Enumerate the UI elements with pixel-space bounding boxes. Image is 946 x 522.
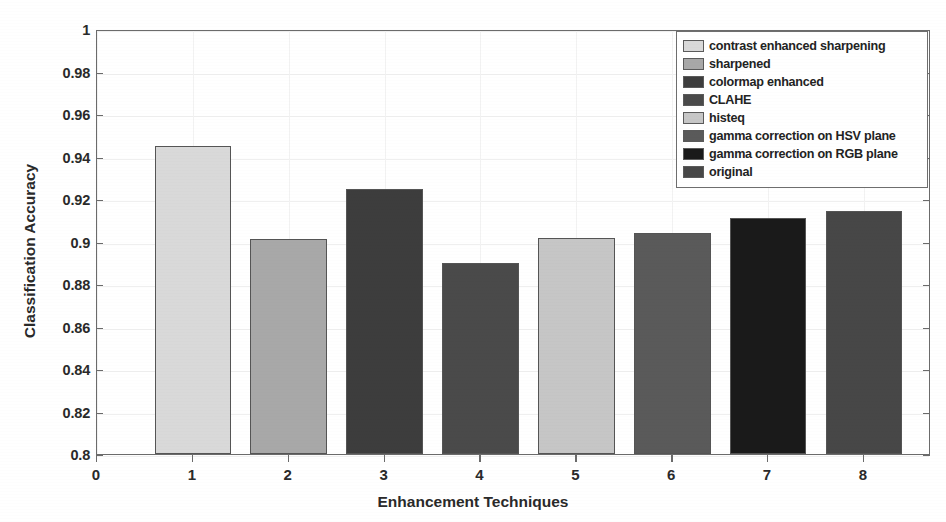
x-tick-label: 0 xyxy=(76,466,116,483)
bar xyxy=(634,233,711,454)
x-tick-mark xyxy=(575,455,576,462)
y-tick-label: 0.94 xyxy=(63,150,90,166)
y-tick-mark xyxy=(96,328,103,329)
legend-swatch xyxy=(683,112,704,124)
x-tick-label: 5 xyxy=(555,466,595,483)
bar-chart-figure: Classification Accuracy 10.980.960.940.9… xyxy=(0,0,946,522)
legend-label: contrast enhanced sharpening xyxy=(709,39,885,53)
y-tick-label: 0.86 xyxy=(63,320,90,336)
y-tick-mark xyxy=(96,200,103,201)
y-tick-mark xyxy=(96,413,103,414)
y-tick-mark-right xyxy=(923,200,930,201)
legend-item: sharpened xyxy=(683,55,922,73)
x-tick-label: 7 xyxy=(747,466,787,483)
legend-label: sharpened xyxy=(709,57,770,71)
x-tick-label: 8 xyxy=(843,466,883,483)
y-tick-mark xyxy=(96,73,103,74)
legend-label: colormap enhanced xyxy=(709,75,824,89)
legend-swatch xyxy=(683,40,704,52)
legend-item: gamma correction on RGB plane xyxy=(683,145,922,163)
x-tick-mark xyxy=(767,455,768,462)
legend-label: original xyxy=(709,165,752,179)
y-tick-label: 0.96 xyxy=(63,107,90,123)
y-tick-mark-right xyxy=(923,413,930,414)
legend-swatch xyxy=(683,76,704,88)
x-tick-label: 2 xyxy=(268,466,308,483)
legend-swatch xyxy=(683,166,704,178)
y-tick-mark-right xyxy=(923,285,930,286)
legend-item: contrast enhanced sharpening xyxy=(683,37,922,55)
bar xyxy=(250,239,327,454)
y-tick-mark-right xyxy=(923,455,930,456)
x-tick-label: 4 xyxy=(459,466,499,483)
legend-item: original xyxy=(683,163,922,181)
x-tick-label: 1 xyxy=(172,466,212,483)
y-tick-label: 0.9 xyxy=(70,235,90,251)
y-tick-label: 0.88 xyxy=(63,277,90,293)
x-tick-mark xyxy=(192,455,193,462)
y-axis-label: Classification Accuracy xyxy=(21,71,39,431)
y-tick-mark xyxy=(96,115,103,116)
x-tick-mark xyxy=(288,455,289,462)
bar xyxy=(730,218,807,454)
bar xyxy=(442,263,519,454)
y-tick-mark xyxy=(96,30,103,31)
gridline-y xyxy=(97,456,929,457)
y-tick-mark xyxy=(96,158,103,159)
y-tick-label: 0.84 xyxy=(63,362,90,378)
x-tick-label: 6 xyxy=(651,466,691,483)
y-tick-label: 0.8 xyxy=(70,447,90,463)
legend-item: colormap enhanced xyxy=(683,73,922,91)
y-tick-label: 0.82 xyxy=(63,405,90,421)
x-axis-label: Enhancement Techniques xyxy=(0,493,946,511)
x-tick-mark xyxy=(671,455,672,462)
legend-label: CLAHE xyxy=(709,93,751,107)
bar xyxy=(155,146,232,454)
y-tick-label: 0.98 xyxy=(63,65,90,81)
bar xyxy=(826,211,903,454)
y-tick-mark-right xyxy=(923,328,930,329)
legend-swatch xyxy=(683,94,704,106)
legend-label: histeq xyxy=(709,111,745,125)
legend-swatch xyxy=(683,58,704,70)
y-tick-mark xyxy=(96,285,103,286)
y-tick-mark-right xyxy=(923,370,930,371)
legend: contrast enhanced sharpeningsharpenedcol… xyxy=(676,31,928,188)
x-tick-mark xyxy=(96,455,97,462)
legend-swatch xyxy=(683,148,704,160)
x-tick-mark xyxy=(863,455,864,462)
y-tick-label: 0.92 xyxy=(63,192,90,208)
legend-swatch xyxy=(683,130,704,142)
x-tick-mark xyxy=(384,455,385,462)
y-tick-mark-right xyxy=(923,243,930,244)
y-tick-mark xyxy=(96,243,103,244)
bar xyxy=(346,189,423,454)
y-tick-label: 1 xyxy=(82,22,90,38)
legend-label: gamma correction on HSV plane xyxy=(709,129,896,143)
legend-item: gamma correction on HSV plane xyxy=(683,127,922,145)
x-tick-mark xyxy=(479,455,480,462)
y-tick-mark xyxy=(96,370,103,371)
legend-item: CLAHE xyxy=(683,91,922,109)
x-tick-label: 3 xyxy=(364,466,404,483)
legend-item: histeq xyxy=(683,109,922,127)
legend-label: gamma correction on RGB plane xyxy=(709,147,898,161)
bar xyxy=(538,238,615,454)
